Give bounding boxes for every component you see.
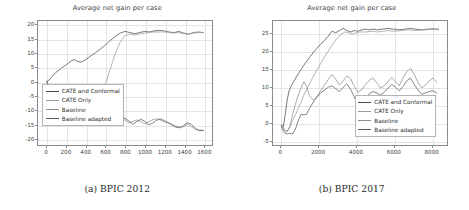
x-axis-tick-mark bbox=[318, 146, 319, 148]
y-axis-tick-mark bbox=[35, 24, 37, 25]
y-axis-tick-mark bbox=[270, 105, 272, 106]
chart-title-a: Average net gain per case bbox=[0, 4, 234, 12]
y-axis-tick-mark bbox=[35, 53, 37, 54]
x-axis-tick-mark bbox=[432, 146, 433, 148]
x-axis-tick-mark bbox=[204, 146, 205, 148]
y-axis-tick-mark bbox=[35, 139, 37, 140]
x-axis-tick-mark bbox=[46, 146, 47, 148]
chart-wrap-b: Average net gain per case 2520151050-502… bbox=[235, 0, 469, 172]
y-axis-tick-label: 0 bbox=[247, 120, 269, 126]
legend-line-icon bbox=[358, 102, 371, 103]
legend-item[interactable]: Baseline adapted bbox=[358, 126, 432, 134]
x-axis-tick-mark bbox=[66, 146, 67, 148]
y-axis-tick-mark bbox=[270, 141, 272, 142]
legend-item-label: CATE Only bbox=[62, 96, 91, 104]
x-axis-tick-label: 8000 bbox=[419, 149, 445, 155]
y-axis-tick-mark bbox=[270, 87, 272, 88]
x-axis-tick-mark bbox=[125, 146, 126, 148]
legend-item[interactable]: Baseline bbox=[46, 106, 120, 114]
series-line bbox=[47, 30, 203, 81]
legend-item-label: Baseline adapted bbox=[374, 126, 423, 134]
y-axis-tick-mark bbox=[270, 123, 272, 124]
y-axis-tick-label: -10 bbox=[12, 107, 34, 113]
x-axis-tick-mark bbox=[165, 146, 166, 148]
y-axis-tick-mark bbox=[35, 39, 37, 40]
y-axis-tick-label: -20 bbox=[12, 136, 34, 142]
y-axis-tick-mark bbox=[270, 69, 272, 70]
y-axis-tick-label: 0 bbox=[12, 79, 34, 85]
x-axis-tick-mark bbox=[145, 146, 146, 148]
caption-a: (a) BPIC 2012 bbox=[0, 183, 235, 194]
x-axis-tick-mark bbox=[185, 146, 186, 148]
y-axis-tick-label: 10 bbox=[12, 50, 34, 56]
y-axis-tick-mark bbox=[270, 33, 272, 34]
x-axis-tick-mark bbox=[86, 146, 87, 148]
y-axis-tick-label: 5 bbox=[247, 102, 269, 108]
x-axis-tick-mark bbox=[105, 146, 106, 148]
y-axis-tick-mark bbox=[35, 125, 37, 126]
legend-line-icon bbox=[46, 109, 59, 110]
legend-item-label: CATE and Conformal bbox=[62, 87, 120, 95]
y-axis-tick-label: 15 bbox=[247, 66, 269, 72]
chart-title-b: Average net gain per case bbox=[235, 4, 469, 12]
legend-item-label: Baseline bbox=[62, 106, 86, 114]
legend-item[interactable]: CATE and Conformal bbox=[46, 87, 120, 95]
legend-b[interactable]: CATE and ConformalCATE OnlyBaselineBasel… bbox=[355, 95, 437, 137]
legend-line-icon bbox=[46, 100, 59, 101]
plot-area-a bbox=[37, 20, 213, 146]
legend-line-icon bbox=[358, 129, 371, 130]
series-canvas bbox=[38, 21, 212, 145]
x-axis-tick-label: 0 bbox=[267, 149, 293, 155]
y-axis-tick-label: -5 bbox=[12, 93, 34, 99]
y-axis-tick-mark bbox=[270, 51, 272, 52]
x-axis-tick-label: 4000 bbox=[343, 149, 369, 155]
x-axis-tick-label: 2000 bbox=[305, 149, 331, 155]
x-axis-tick-mark bbox=[394, 146, 395, 148]
legend-item[interactable]: CATE Only bbox=[358, 107, 432, 115]
legend-line-icon bbox=[358, 111, 371, 112]
subfigure-a: Average net gain per case 20151050-5-10-… bbox=[0, 0, 235, 210]
y-axis-tick-label: 15 bbox=[12, 36, 34, 42]
y-axis-tick-mark bbox=[35, 96, 37, 97]
y-axis-tick-mark bbox=[35, 110, 37, 111]
legend-a[interactable]: CATE and ConformalCATE OnlyBaselineBasel… bbox=[42, 84, 124, 126]
y-axis-tick-mark bbox=[35, 82, 37, 83]
legend-line-icon bbox=[46, 118, 59, 119]
y-axis-tick-label: 10 bbox=[247, 84, 269, 90]
x-axis-tick-label: 1600 bbox=[191, 149, 217, 155]
legend-item[interactable]: CATE Only bbox=[46, 96, 120, 104]
x-axis-tick-mark bbox=[356, 146, 357, 148]
y-axis-tick-label: 20 bbox=[12, 21, 34, 27]
legend-line-icon bbox=[358, 120, 371, 121]
legend-line-icon bbox=[46, 91, 59, 92]
y-axis-tick-label: -5 bbox=[247, 138, 269, 144]
y-axis-tick-mark bbox=[35, 67, 37, 68]
x-axis-tick-mark bbox=[280, 146, 281, 148]
legend-item-label: Baseline adapted bbox=[62, 115, 111, 123]
legend-item[interactable]: Baseline adapted bbox=[46, 115, 120, 123]
legend-item-label: CATE Only bbox=[374, 107, 403, 115]
legend-item-label: Baseline bbox=[374, 117, 398, 125]
y-axis-tick-label: 5 bbox=[12, 64, 34, 70]
legend-item-label: CATE and Conformal bbox=[374, 98, 432, 106]
legend-item[interactable]: CATE and Conformal bbox=[358, 98, 432, 106]
chart-wrap-a: Average net gain per case 20151050-5-10-… bbox=[0, 0, 234, 172]
legend-item[interactable]: Baseline bbox=[358, 117, 432, 125]
y-axis-tick-label: 20 bbox=[247, 48, 269, 54]
subfigure-b: Average net gain per case 2520151050-502… bbox=[235, 0, 469, 210]
y-axis-tick-label: -15 bbox=[12, 122, 34, 128]
x-axis-tick-label: 6000 bbox=[381, 149, 407, 155]
y-axis-tick-label: 25 bbox=[247, 30, 269, 36]
figure-panel: Average net gain per case 20151050-5-10-… bbox=[0, 0, 469, 210]
caption-b: (b) BPIC 2017 bbox=[235, 183, 469, 194]
